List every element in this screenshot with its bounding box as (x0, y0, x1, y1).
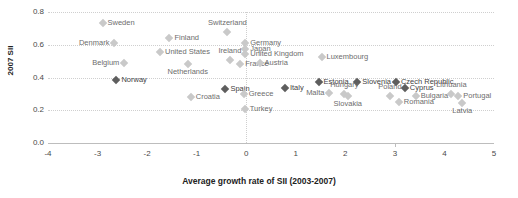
x-axis-line (48, 143, 494, 144)
data-point-label: United States (165, 48, 210, 56)
data-point-label: Portugal (463, 92, 491, 100)
data-point-label: Luxembourg (327, 53, 369, 61)
y-tick-label: 0.4 (10, 74, 44, 82)
data-point[interactable] (223, 27, 231, 35)
x-tick-label: 4 (429, 150, 459, 158)
data-point[interactable] (98, 18, 106, 26)
data-point[interactable] (281, 84, 289, 92)
x-tick-label: -3 (83, 150, 113, 158)
data-point[interactable] (236, 60, 244, 68)
data-point-label: Netherlands (168, 68, 208, 76)
y-tick-label: 0.0 (10, 139, 44, 147)
x-tick-label: 3 (380, 150, 410, 158)
y-tick-label: 0.6 (10, 41, 44, 49)
data-point-label: Norway (121, 76, 146, 84)
y-tick-label: 0.2 (10, 106, 44, 114)
data-point-label: Denmark (79, 39, 109, 47)
data-point[interactable] (120, 59, 128, 67)
data-point-label: Greece (249, 90, 274, 98)
x-tick-label: -2 (132, 150, 162, 158)
data-point[interactable] (186, 93, 194, 101)
x-tick-label: -4 (33, 150, 63, 158)
data-point[interactable] (317, 53, 325, 61)
data-point-label: Turkey (250, 105, 273, 113)
data-point-label: Malta (306, 89, 324, 97)
data-point-label: Croatia (196, 93, 220, 101)
y-tick-label: 0.8 (10, 8, 44, 16)
data-point-label: Hungary (330, 81, 358, 89)
data-point[interactable] (226, 56, 234, 64)
data-point[interactable] (240, 105, 248, 113)
data-point-label: Austria (265, 59, 288, 67)
data-point[interactable] (314, 78, 322, 86)
y-axis-title: 2007 SII (6, 31, 15, 91)
x-tick-label: 0 (231, 150, 261, 158)
data-point[interactable] (221, 85, 229, 93)
data-point-label: Belgium (92, 59, 119, 67)
data-point[interactable] (156, 48, 164, 56)
data-point[interactable] (241, 50, 249, 58)
data-point-label: United Kingdom (250, 50, 303, 58)
x-tick-label: -1 (182, 150, 212, 158)
data-point-label: Poland (378, 83, 401, 91)
x-tick-label: 1 (281, 150, 311, 158)
data-point-label: Finland (174, 34, 199, 42)
data-point-label: Sweden (108, 19, 135, 27)
scatter-chart: SwedenDenmarkFinlandUnited StatesSwitzer… (0, 0, 518, 198)
x-tick-mark (395, 143, 396, 147)
data-point[interactable] (325, 89, 333, 97)
data-point-label: Italy (290, 84, 304, 92)
x-axis-title: Average growth rate of SII (2003-2007) (0, 176, 518, 186)
data-point-label: Lithuania (436, 81, 466, 89)
x-tick-label: 2 (330, 150, 360, 158)
data-point[interactable] (110, 39, 118, 47)
data-point-label: Slovakia (334, 100, 362, 108)
data-point-label: Latvia (452, 107, 472, 115)
data-point-label: Ireland (218, 47, 241, 55)
data-point-label: Switzerland (208, 19, 247, 27)
data-point[interactable] (395, 98, 403, 106)
data-point-label: Romania (404, 98, 434, 106)
plot-area: SwedenDenmarkFinlandUnited StatesSwitzer… (48, 12, 494, 143)
data-point[interactable] (165, 34, 173, 42)
x-tick-label: 5 (479, 150, 509, 158)
gridline-horizontal (48, 12, 494, 13)
gridline-vertical-zero (246, 12, 247, 143)
data-point[interactable] (386, 91, 394, 99)
